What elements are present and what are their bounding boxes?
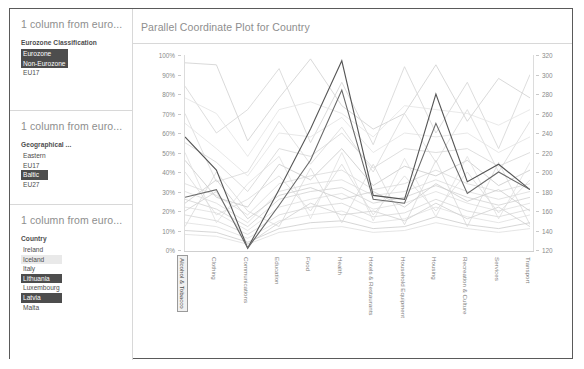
x-axis-label[interactable]: Food xyxy=(304,255,313,273)
series-line-muted xyxy=(185,164,530,215)
filter-option-iceland[interactable]: Iceland xyxy=(21,255,62,265)
axis-tick-label: 40% xyxy=(162,169,175,176)
filter-option-eastern[interactable]: Eastern xyxy=(21,151,48,161)
filter-option-malta[interactable]: Malta xyxy=(21,303,62,313)
axis-tick-mark xyxy=(178,94,181,95)
filter-panel-title: 1 column from euro... xyxy=(21,214,122,226)
filter-column: 1 column from euro... Eurozone Classific… xyxy=(10,9,132,358)
x-axis-category-labels: Alcohol & TobaccoClothingCommunicationsE… xyxy=(185,255,530,347)
filter-panel-body: Geographical ... Eastern EU17 Baltic EU2… xyxy=(21,141,124,191)
axis-tick-label: 0% xyxy=(166,247,175,254)
y-axis-left: 0%10%20%30%40%50%60%70%80%90%100% xyxy=(133,55,181,250)
axis-tick-mark xyxy=(178,153,181,154)
axis-tick-label: 300 xyxy=(542,71,553,78)
filter-panel-body: Eurozone Classification Eurozone Non-Eur… xyxy=(21,39,124,79)
axis-tick-label: 240 xyxy=(542,130,553,137)
axis-tick-label: 260 xyxy=(542,110,553,117)
x-axis-label[interactable]: Communications xyxy=(242,255,251,305)
filter-field-label: Eurozone Classification xyxy=(21,39,124,46)
axis-tick-label: 280 xyxy=(542,91,553,98)
axis-tick-mark xyxy=(536,153,539,154)
chart-panel: Parallel Coordinate Plot for Country 0%1… xyxy=(133,9,572,358)
x-axis-label[interactable]: Services xyxy=(493,255,502,283)
axis-line-right xyxy=(533,55,534,252)
filter-option-eu17[interactable]: EU17 xyxy=(21,161,48,171)
series-line-muted xyxy=(185,207,530,238)
axis-tick-mark xyxy=(536,94,539,95)
filter-field-label: Geographical ... xyxy=(21,141,124,148)
chart-title: Parallel Coordinate Plot for Country xyxy=(141,21,310,33)
axis-tick-mark xyxy=(536,55,539,56)
x-axis-label[interactable]: Alcohol & Tobacco xyxy=(177,255,188,312)
parallel-coordinate-plot[interactable] xyxy=(185,55,530,250)
axis-tick-mark xyxy=(178,75,181,76)
axis-tick-label: 50% xyxy=(162,149,175,156)
dashboard-frame: 1 column from euro... Eurozone Classific… xyxy=(9,8,573,359)
axis-tick-mark xyxy=(178,192,181,193)
axis-tick-label: 60% xyxy=(162,130,175,137)
axis-line-bottom xyxy=(184,251,534,252)
filter-option-italy[interactable]: Italy xyxy=(21,264,62,274)
axis-tick-mark xyxy=(536,250,539,251)
axis-tick-label: 100% xyxy=(159,52,175,59)
axis-tick-label: 90% xyxy=(162,71,175,78)
axis-tick-label: 10% xyxy=(162,227,175,234)
axis-tick-mark xyxy=(536,211,539,212)
filter-panel-country: 1 column from euro... Country Ireland Ic… xyxy=(10,205,132,360)
filter-option-lithuania[interactable]: Lithuania xyxy=(21,274,62,284)
axis-tick-label: 30% xyxy=(162,188,175,195)
filter-panel-body: Country Ireland Iceland Italy Lithuania … xyxy=(21,235,124,314)
filter-panel-title: 1 column from euro... xyxy=(21,120,122,132)
filter-option-list: Ireland Iceland Italy Lithuania Luxembou… xyxy=(21,245,62,312)
x-axis-label[interactable]: Housing xyxy=(430,255,439,282)
filter-option-eurozone[interactable]: Eurozone xyxy=(21,49,68,59)
axis-tick-label: 180 xyxy=(542,188,553,195)
x-axis-label[interactable]: Hotels & Restaurants xyxy=(367,255,376,317)
axis-tick-label: 20% xyxy=(162,208,175,215)
axis-tick-mark xyxy=(178,55,181,56)
filter-option-list: Eurozone Non-Eurozone EU17 xyxy=(21,49,68,78)
series-line-muted xyxy=(185,153,530,223)
axis-tick-label: 80% xyxy=(162,91,175,98)
filter-option-latvia[interactable]: Latvia xyxy=(21,293,62,303)
x-axis-label[interactable]: Health xyxy=(336,255,345,277)
filter-option-eu27[interactable]: EU27 xyxy=(21,180,48,190)
axis-tick-label: 140 xyxy=(542,227,553,234)
filter-panel-title: 1 column from euro... xyxy=(21,18,122,30)
axis-tick-label: 200 xyxy=(542,169,553,176)
x-axis-label[interactable]: Education xyxy=(273,255,282,287)
axis-tick-mark xyxy=(178,114,181,115)
y-axis-right: 120140160180200220240260280300320 xyxy=(536,55,576,250)
axis-tick-mark xyxy=(178,250,181,251)
filter-option-ireland[interactable]: Ireland xyxy=(21,245,62,255)
filter-option-baltic[interactable]: Baltic xyxy=(21,170,48,180)
axis-tick-mark xyxy=(536,231,539,232)
axis-tick-label: 320 xyxy=(542,52,553,59)
axis-tick-mark xyxy=(178,172,181,173)
filter-option-list: Eastern EU17 Baltic EU27 xyxy=(21,151,48,189)
x-axis-label[interactable]: Transport xyxy=(524,255,533,285)
axis-tick-mark xyxy=(536,114,539,115)
filter-option-non-eurozone[interactable]: Non-Eurozone xyxy=(21,59,68,69)
series-line-muted xyxy=(185,192,530,245)
x-axis-label[interactable]: Clothing xyxy=(210,255,219,282)
filter-panel-eurozone-classification: 1 column from euro... Eurozone Classific… xyxy=(10,9,132,111)
axis-tick-mark xyxy=(536,172,539,173)
series-line-muted xyxy=(185,170,530,215)
axis-tick-mark xyxy=(536,75,539,76)
axis-tick-mark xyxy=(536,192,539,193)
filter-option-luxembourg[interactable]: Luxembourg xyxy=(21,283,62,293)
series-line-muted xyxy=(185,67,530,149)
axis-tick-mark xyxy=(178,231,181,232)
x-axis-label[interactable]: Recreation & Culture xyxy=(461,255,470,316)
filter-panel-geographical: 1 column from euro... Geographical ... E… xyxy=(10,111,132,205)
axis-tick-label: 220 xyxy=(542,149,553,156)
x-axis-label[interactable]: Household Equipment xyxy=(399,255,408,320)
axis-tick-mark xyxy=(178,133,181,134)
plot-wrapper: 0%10%20%30%40%50%60%70%80%90%100% 120140… xyxy=(133,43,572,358)
filter-option-eu17[interactable]: EU17 xyxy=(21,68,68,78)
axis-tick-label: 70% xyxy=(162,110,175,117)
axis-tick-mark xyxy=(178,211,181,212)
axis-tick-mark xyxy=(536,133,539,134)
axis-tick-label: 160 xyxy=(542,208,553,215)
